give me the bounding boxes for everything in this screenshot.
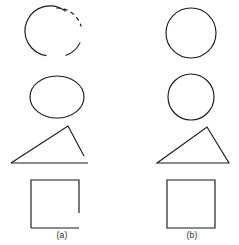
shape-figure-canvas: (a) (b) <box>0 0 239 245</box>
closed-triangle-outline <box>157 127 229 163</box>
shape-a-open-square <box>31 180 79 228</box>
broken-circle-dashed-arc <box>56 8 81 27</box>
open-square-main-path <box>31 180 79 228</box>
column-a-group: (a) <box>11 6 88 240</box>
shape-a-broken-circle <box>25 6 81 56</box>
shape-a-open-triangle <box>11 126 88 163</box>
shape-a-ellipse <box>30 76 84 118</box>
broken-circle-solid-arc-lower-right <box>66 42 81 55</box>
open-triangle-two-sides <box>11 126 84 163</box>
circle-outline-large <box>166 8 216 58</box>
caption-b: (b) <box>187 230 198 240</box>
broken-circle-solid-arc-left <box>25 6 66 56</box>
figure-container: (a) (b) <box>0 0 239 245</box>
shape-b-circle-large <box>166 8 216 58</box>
circle-outline-medium <box>168 74 214 120</box>
ellipse-outline <box>30 76 84 118</box>
closed-square-outline <box>167 180 215 228</box>
shape-b-circle-medium <box>168 74 214 120</box>
shape-b-closed-square <box>167 180 215 228</box>
caption-a: (a) <box>57 230 68 240</box>
shape-b-closed-triangle <box>157 127 229 163</box>
column-b-group: (b) <box>157 8 229 240</box>
